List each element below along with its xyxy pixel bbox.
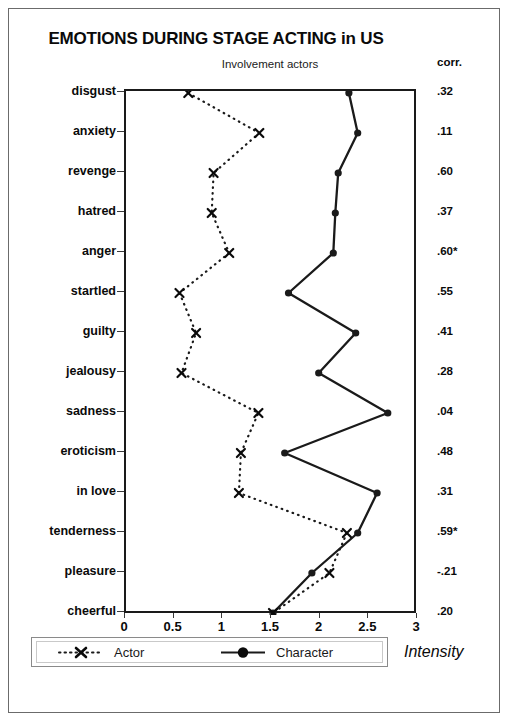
character-marker-icon <box>220 645 266 659</box>
x-axis-tick-label: 1.5 <box>261 619 279 634</box>
correlation-value: .11 <box>437 125 452 137</box>
actor-series-line <box>180 93 347 613</box>
x-axis-tick <box>367 613 368 618</box>
actor-data-point <box>237 449 245 457</box>
y-axis-label: guilty <box>20 324 116 338</box>
figure-page: EMOTIONS DURING STAGE ACTING in US Invol… <box>0 0 508 721</box>
actor-data-point <box>343 529 351 537</box>
correlation-value: .31 <box>437 485 453 497</box>
x-axis-tick <box>173 613 174 618</box>
y-axis-tick <box>117 331 124 332</box>
y-axis-tick <box>117 91 124 92</box>
correlation-value: .20 <box>437 605 453 617</box>
y-axis-label: anger <box>20 244 116 258</box>
y-axis-label: anxiety <box>20 124 116 138</box>
x-axis-tick-label: 1 <box>218 619 225 634</box>
x-axis-tick-label: 0 <box>120 619 127 634</box>
y-axis-tick <box>117 371 124 372</box>
correlation-value: .32 <box>437 85 453 97</box>
actor-data-point <box>255 129 263 137</box>
chart-legend: Actor Character <box>31 637 388 667</box>
x-axis-tick <box>124 613 125 618</box>
character-data-point <box>354 129 361 136</box>
y-axis-tick <box>117 491 124 492</box>
correlation-value: .04 <box>437 405 453 417</box>
chart-title: EMOTIONS DURING STAGE ACTING in US <box>0 29 432 49</box>
correlation-column-header: corr. <box>437 56 462 68</box>
character-data-point <box>354 529 361 536</box>
x-axis-title: Intensity <box>404 643 464 661</box>
actor-data-point <box>176 289 184 297</box>
y-axis-label: pleasure <box>20 564 116 578</box>
y-axis-tick <box>117 531 124 532</box>
x-axis-tick <box>221 613 222 618</box>
actor-marker-icon <box>58 645 104 659</box>
y-axis-label: eroticism <box>20 444 116 458</box>
plot-area <box>124 89 416 613</box>
actor-data-point <box>325 569 333 577</box>
x-axis-tick-label: 0.5 <box>164 619 182 634</box>
character-data-point <box>335 169 342 176</box>
character-data-point <box>345 91 352 97</box>
y-axis-label: in love <box>20 484 116 498</box>
legend-label-character: Character <box>276 645 333 660</box>
actor-data-point <box>178 369 186 377</box>
x-axis-tick-label: 3 <box>412 619 419 634</box>
x-axis-tick-label: 2.5 <box>358 619 376 634</box>
y-axis-tick <box>117 571 124 572</box>
character-data-point <box>330 249 337 256</box>
x-axis-tick-label: 2 <box>315 619 322 634</box>
y-axis-tick <box>117 411 124 412</box>
correlation-value: .55 <box>437 285 453 297</box>
y-axis-label: jealousy <box>20 364 116 378</box>
y-axis-tick <box>117 611 124 612</box>
character-data-point <box>285 289 292 296</box>
series-canvas <box>126 91 418 615</box>
legend-item-actor: Actor <box>58 645 144 660</box>
x-axis-tick <box>270 613 271 618</box>
correlation-value: .60 <box>437 165 453 177</box>
actor-data-point <box>184 91 192 97</box>
y-axis-label: revenge <box>20 164 116 178</box>
y-axis-tick <box>117 291 124 292</box>
correlation-value: .28 <box>437 365 453 377</box>
actor-data-point <box>225 249 233 257</box>
y-axis-label: startled <box>20 284 116 298</box>
y-axis-tick <box>117 211 124 212</box>
correlation-value: .41 <box>437 325 453 337</box>
y-axis-label: sadness <box>20 404 116 418</box>
correlation-value: .37 <box>437 205 453 217</box>
y-axis-label: cheerful <box>20 604 116 618</box>
character-data-point <box>352 329 359 336</box>
character-data-point <box>315 369 322 376</box>
character-data-point <box>308 569 315 576</box>
character-data-point <box>332 209 339 216</box>
character-series-line <box>273 93 388 613</box>
y-axis-tick <box>117 251 124 252</box>
character-data-point <box>384 409 391 416</box>
character-data-point <box>281 449 288 456</box>
correlation-value: .59* <box>437 525 457 537</box>
correlation-value: .48 <box>437 445 453 457</box>
correlation-value: -.21 <box>437 565 457 577</box>
actor-data-point <box>254 409 262 417</box>
actor-data-point <box>235 489 243 497</box>
legend-label-actor: Actor <box>114 645 144 660</box>
y-axis-label: hatred <box>20 204 116 218</box>
correlation-value: .60* <box>437 245 457 257</box>
x-axis-tick <box>319 613 320 618</box>
y-axis-label: disgust <box>20 84 116 98</box>
x-axis-tick <box>416 613 417 618</box>
y-axis-tick <box>117 171 124 172</box>
legend-item-character: Character <box>220 645 333 660</box>
y-axis-tick <box>117 451 124 452</box>
character-data-point <box>374 489 381 496</box>
y-axis-tick <box>117 131 124 132</box>
y-axis-label: tenderness <box>20 524 116 538</box>
chart-subtitle: Involvement actors <box>124 58 416 70</box>
